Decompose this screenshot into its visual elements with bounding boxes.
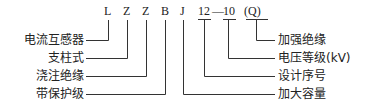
label-reinforced-insulation: 加强绝缘	[278, 33, 326, 47]
label-protection-class: 带保护级	[4, 87, 84, 101]
label-current-transformer: 电流互感器	[4, 33, 84, 47]
label-voltage-class: 电压等级(kV)	[278, 51, 351, 65]
label-design-serial: 设计序号	[278, 69, 326, 83]
label-cast-insulation: 浇注绝缘	[4, 69, 84, 83]
label-increased-capacity: 加大容量	[278, 87, 326, 101]
label-post-type: 支柱式	[4, 51, 84, 65]
